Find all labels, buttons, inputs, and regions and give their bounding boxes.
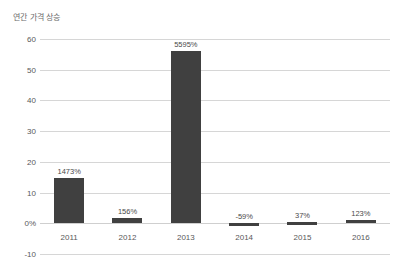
y-axis-tick-label: 30 xyxy=(2,127,36,136)
x-axis-tick-label: 2013 xyxy=(177,233,195,242)
y-axis-tick-label: 50 xyxy=(2,65,36,74)
y-axis-tick-label: 40 xyxy=(2,96,36,105)
bar[interactable] xyxy=(346,220,376,224)
x-axis-tick-label: 2015 xyxy=(294,233,312,242)
y-axis-tick-label: 10 xyxy=(2,188,36,197)
bar-value-label: 1473% xyxy=(57,167,80,176)
x-axis-tick-label: 2014 xyxy=(235,233,253,242)
bar-group: 5595% xyxy=(157,39,215,254)
plot-area: 1473%156%5595%-59%37%123% xyxy=(40,39,390,254)
bar-group: -59% xyxy=(215,39,273,254)
y-axis-tick-label: 0% xyxy=(2,219,36,228)
bar-group: 1473% xyxy=(40,39,98,254)
y-axis-tick-label: 60 xyxy=(2,35,36,44)
bar-group: 37% xyxy=(273,39,331,254)
y-axis: 6050403020100%-10 xyxy=(0,39,36,254)
x-axis-tick-label: 2012 xyxy=(119,233,137,242)
x-axis-tick-label: 2016 xyxy=(352,233,370,242)
y-axis-tick-label: 20 xyxy=(2,157,36,166)
bar-group: 156% xyxy=(98,39,156,254)
gridline xyxy=(40,254,390,255)
bar-value-label: 37% xyxy=(295,211,310,220)
bar[interactable] xyxy=(229,223,259,226)
bar-value-label: 156% xyxy=(118,207,137,216)
bar[interactable] xyxy=(287,222,317,225)
chart-title: 연간 가격 상승 xyxy=(13,11,60,22)
bar-value-label: 123% xyxy=(351,209,370,218)
x-axis-tick-label: 2011 xyxy=(61,233,78,242)
bar[interactable] xyxy=(171,51,201,223)
bar-value-label: -59% xyxy=(235,212,253,221)
x-axis: 201120122013201420152016 xyxy=(40,233,390,247)
bar[interactable] xyxy=(54,178,84,223)
y-axis-tick-label: -10 xyxy=(2,250,36,259)
bar[interactable] xyxy=(112,218,142,223)
bar-value-label: 5595% xyxy=(174,40,197,49)
chart-screenshot: 연간 가격 상승 6050403020100%-10 1473%156%5595… xyxy=(0,0,414,274)
bar-group: 123% xyxy=(332,39,390,254)
